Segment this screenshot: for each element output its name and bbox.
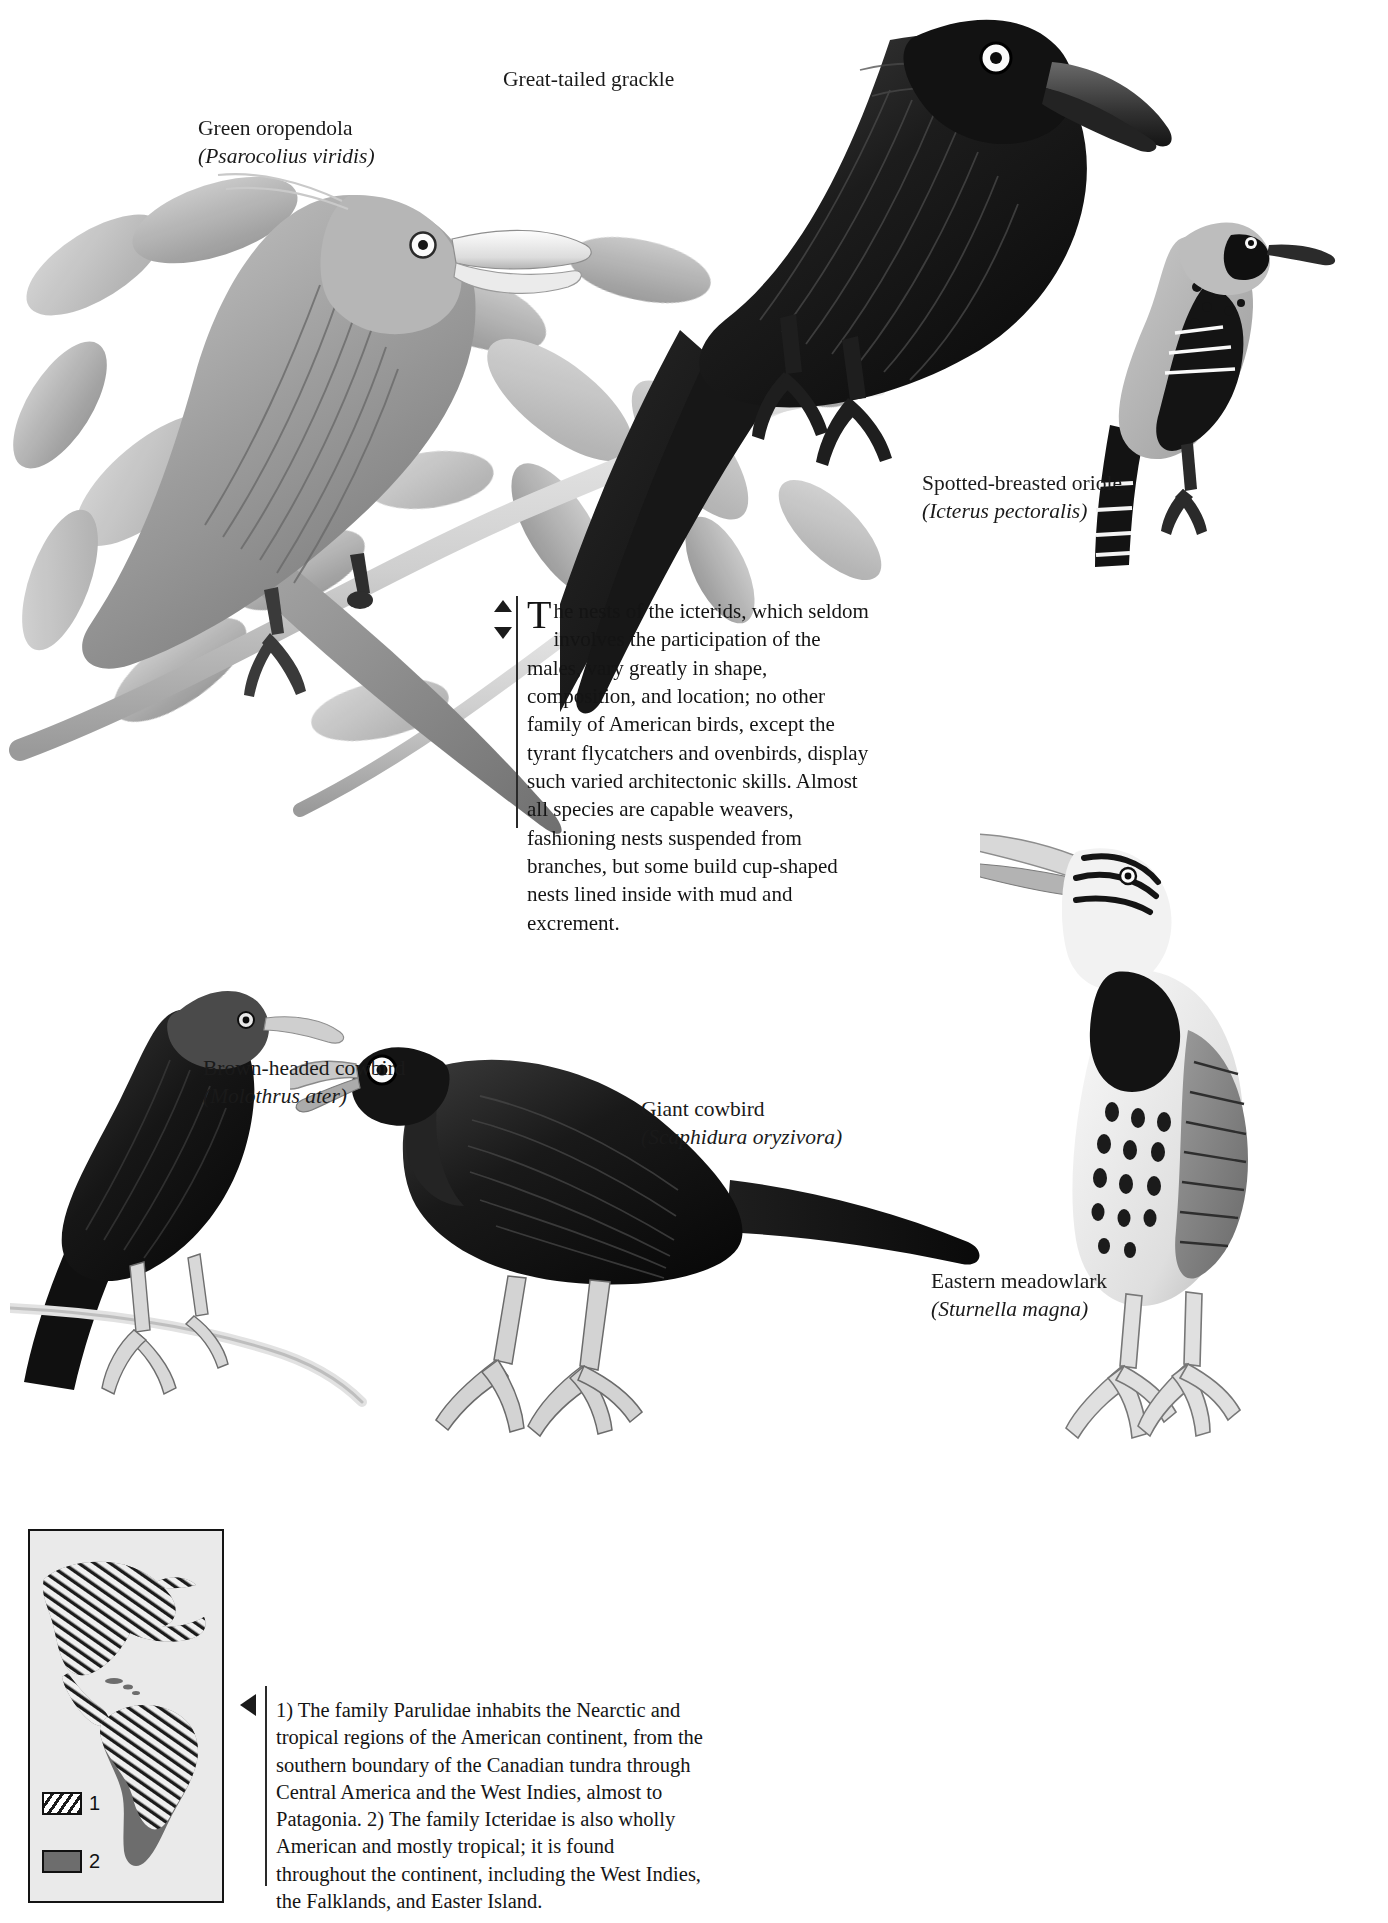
- drop-cap: T: [527, 597, 552, 630]
- common-name-giant-cowbird: Giant cowbird: [641, 1096, 842, 1124]
- eastern-meadowlark-illustration: [980, 800, 1360, 1460]
- scientific-name-green-oropendola: (Psarocolius viridis): [198, 143, 375, 171]
- common-name-great-tailed-grackle: Great-tailed grackle: [503, 66, 674, 94]
- common-name-spotted-breasted-oriole: Spotted-breasted oriole: [922, 470, 1122, 498]
- triangle-down-icon[interactable]: [494, 627, 512, 639]
- common-name-green-oropendola: Green oropendola: [198, 115, 375, 143]
- species-label-eastern-meadowlark: Eastern meadowlark (Sturnella magna): [931, 1268, 1107, 1323]
- triangle-left-icon[interactable]: [240, 1694, 256, 1716]
- species-label-spotted-breasted-oriole: Spotted-breasted oriole (Icterus pectora…: [922, 470, 1122, 525]
- scientific-name-brown-headed-cowbird: (Molothrus ater): [203, 1083, 405, 1111]
- species-label-brown-headed-cowbird: Brown-headed cowbird (Molothrus ater): [203, 1055, 405, 1110]
- common-name-brown-headed-cowbird: Brown-headed cowbird: [203, 1055, 405, 1083]
- legend-key-1: 1: [89, 1792, 100, 1815]
- main-text-rule: [516, 596, 518, 828]
- legend-swatch-hatched: [42, 1792, 82, 1815]
- distribution-map: 1 2: [28, 1529, 224, 1903]
- map-legend-item-1: 1: [42, 1792, 100, 1815]
- map-caption-text: 1) The family Parulidae inhabits the Nea…: [276, 1697, 706, 1915]
- species-label-giant-cowbird: Giant cowbird (Scaphidura oryzivora): [641, 1096, 842, 1151]
- species-label-green-oropendola: Green oropendola (Psarocolius viridis): [198, 115, 375, 170]
- scientific-name-spotted-breasted-oriole: (Icterus pectoralis): [922, 498, 1122, 526]
- common-name-eastern-meadowlark: Eastern meadowlark: [931, 1268, 1107, 1296]
- spotted-breasted-oriole-illustration: [1055, 195, 1355, 615]
- scientific-name-eastern-meadowlark: (Sturnella magna): [931, 1296, 1107, 1324]
- triangle-up-icon[interactable]: [494, 600, 512, 612]
- main-text-block: The nests of the icterids, which seldom …: [527, 597, 872, 937]
- scientific-name-giant-cowbird: (Scaphidura oryzivora): [641, 1124, 842, 1152]
- map-svg: [30, 1531, 222, 1901]
- map-caption-rule: [265, 1686, 267, 1886]
- legend-swatch-solid: [42, 1850, 82, 1873]
- map-legend-item-2: 2: [42, 1850, 100, 1873]
- main-text-body: he nests of the icterids, which seldom i…: [527, 599, 869, 935]
- species-label-great-tailed-grackle: Great-tailed grackle: [503, 66, 674, 94]
- legend-key-2: 2: [89, 1850, 100, 1873]
